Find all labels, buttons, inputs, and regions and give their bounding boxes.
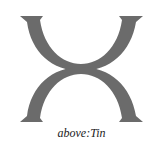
upper-arc — [20, 16, 143, 71]
lower-arc — [20, 67, 143, 122]
tin-symbol-icon — [0, 0, 163, 130]
figure-caption: above:Tin — [0, 126, 163, 141]
